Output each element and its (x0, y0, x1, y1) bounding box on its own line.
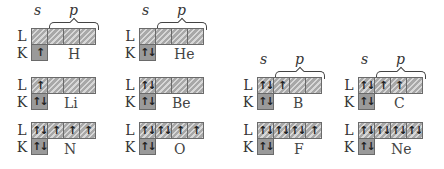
orbital-2p-3 (406, 77, 423, 94)
orbital-2s: ↑ (31, 77, 48, 94)
orbital-2p-2: ↑↓ (289, 122, 306, 139)
orbital-1s: ↑↓ (139, 93, 156, 110)
element-symbol: Li (64, 95, 78, 111)
orbital-2p-2 (171, 28, 188, 45)
orbital-2p-1: ↑ (273, 77, 290, 94)
orbital-2p-2 (63, 77, 80, 94)
element-symbol: B (293, 95, 303, 111)
l-shell-orbitals (31, 28, 95, 45)
orbital-2p-1 (47, 77, 64, 94)
shell-k-label: K (16, 139, 28, 156)
orbital-2s: ↑↓ (257, 122, 274, 139)
orbital-2p-3 (79, 77, 96, 94)
shell-k-label: K (16, 45, 28, 62)
orbital-2p-3: ↑↓ (406, 122, 423, 139)
orbital-1s: ↑↓ (31, 138, 48, 155)
subshell-s-label: s (361, 51, 368, 67)
orbital-2s (31, 28, 48, 45)
shell-k-label: K (124, 45, 136, 62)
shell-k-label: K (242, 94, 254, 111)
subshell-p-label: p (69, 2, 78, 18)
shell-l-label: L (242, 122, 254, 139)
subshell-s-label: s (142, 2, 149, 18)
orbital-2p-1 (155, 77, 172, 94)
shell-l-label: L (16, 28, 28, 45)
l-shell-orbitals: ↑↓ ↑↓ ↑↓ ↑ (257, 122, 321, 139)
orbital-2s: ↑↓ (139, 122, 156, 139)
subshell-p-label: p (396, 51, 405, 67)
shell-k-label: K (343, 139, 355, 156)
element-symbol: Ne (391, 141, 412, 157)
shell-l-label: L (124, 122, 136, 139)
l-shell-orbitals: ↑↓ ↑ ↑ ↑ (31, 122, 95, 139)
orbital-2p-1: ↑↓ (155, 122, 172, 139)
shell-k-label: K (16, 94, 28, 111)
orbital-2p-3 (305, 77, 322, 94)
orbital-2p-1 (155, 28, 172, 45)
orbital-2p-1: ↑ (374, 77, 391, 94)
k-shell-orbitals: ↑↓ (139, 138, 155, 155)
element-symbol: He (174, 46, 195, 62)
shell-l-label: L (343, 122, 355, 139)
subshell-s-label: s (260, 51, 267, 67)
l-shell-orbitals: ↑↓ ↑↓ ↑↓ ↑↓ (358, 122, 422, 139)
orbital-2p-3 (187, 77, 204, 94)
subshell-p-label: p (177, 2, 186, 18)
orbital-2s: ↑↓ (31, 122, 48, 139)
subshell-p-label: p (295, 51, 304, 67)
shell-k-label: K (242, 139, 254, 156)
subshell-s-label: s (34, 2, 41, 18)
orbital-2s: ↑↓ (139, 77, 156, 94)
orbital-2p-2 (171, 77, 188, 94)
orbital-2p-1 (47, 28, 64, 45)
orbital-1s: ↑ (31, 44, 48, 61)
shell-l-label: L (124, 77, 136, 94)
k-shell-orbitals: ↑↓ (139, 44, 155, 61)
orbital-1s: ↑↓ (139, 44, 156, 61)
k-shell-orbitals: ↑ (31, 44, 47, 61)
k-shell-orbitals: ↑↓ (31, 138, 47, 155)
shell-l-label: L (16, 77, 28, 94)
shell-k-label: K (124, 139, 136, 156)
orbital-2s (139, 28, 156, 45)
orbital-2p-3: ↑ (305, 122, 322, 139)
k-shell-orbitals: ↑↓ (257, 93, 273, 110)
shell-l-label: L (343, 77, 355, 94)
orbital-2p-2: ↑↓ (390, 122, 407, 139)
orbital-2p-3 (79, 28, 96, 45)
orbital-2p-1: ↑ (47, 122, 64, 139)
orbital-2p-2 (63, 28, 80, 45)
shell-l-label: L (16, 122, 28, 139)
orbital-2p-2: ↑ (390, 77, 407, 94)
orbital-2p-3: ↑ (187, 122, 204, 139)
orbital-2p-2: ↑ (171, 122, 188, 139)
orbital-2s: ↑↓ (257, 77, 274, 94)
orbital-1s: ↑↓ (358, 138, 375, 155)
orbital-1s: ↑↓ (358, 93, 375, 110)
l-shell-orbitals: ↑↓ ↑↓ ↑ ↑ (139, 122, 203, 139)
orbital-2s: ↑↓ (358, 77, 375, 94)
shell-l-label: L (124, 28, 136, 45)
l-shell-orbitals: ↑ (31, 77, 95, 94)
k-shell-orbitals: ↑↓ (31, 93, 47, 110)
element-symbol: N (64, 141, 76, 157)
k-shell-orbitals: ↑↓ (358, 93, 374, 110)
element-symbol: F (294, 141, 304, 157)
orbital-2p-3: ↑ (79, 122, 96, 139)
orbital-2p-3 (187, 28, 204, 45)
orbital-1s: ↑↓ (257, 93, 274, 110)
element-symbol: Be (172, 95, 191, 111)
l-shell-orbitals (139, 28, 203, 45)
element-symbol: O (174, 141, 185, 157)
k-shell-orbitals: ↑↓ (257, 138, 273, 155)
orbital-1s: ↑↓ (257, 138, 274, 155)
orbital-1s: ↑↓ (31, 93, 48, 110)
element-symbol: C (394, 95, 405, 111)
orbital-1s: ↑↓ (139, 138, 156, 155)
shell-l-label: L (242, 77, 254, 94)
orbital-2p-2: ↑ (63, 122, 80, 139)
k-shell-orbitals: ↑↓ (139, 93, 155, 110)
l-shell-orbitals: ↑↓ (139, 77, 203, 94)
orbital-2s: ↑↓ (358, 122, 375, 139)
orbital-2p-1: ↑↓ (374, 122, 391, 139)
